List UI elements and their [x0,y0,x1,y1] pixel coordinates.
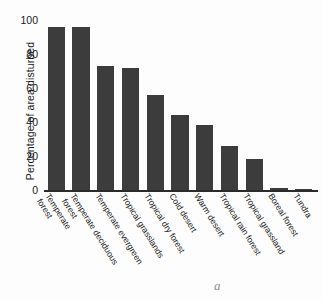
x-tick-label: Temperate deciduousforest [60,192,120,272]
bar [147,95,164,190]
x-axis-tick-labels: TemperateforestTemperate deciduousforest… [44,192,323,299]
bar [171,115,188,190]
bar [246,159,263,190]
plot-area [44,20,316,190]
bar [72,27,89,190]
bar [48,27,65,190]
bar [196,125,213,190]
bar [97,66,114,190]
y-tick-label: 60 [14,83,38,94]
y-tick-label: 20 [14,151,38,162]
y-tick-label: 0 [14,185,38,196]
x-tick-label-line1: Tundra [291,191,314,219]
y-tick-label: 100 [14,15,38,26]
x-tick-label: Tundra [291,192,313,220]
bar [221,146,238,190]
bar [122,68,139,190]
y-tick-label: 40 [14,117,38,128]
y-tick-label: 80 [14,49,38,60]
figure-caption-mark: a [214,278,221,294]
y-axis-ticks: 100806040200 [6,0,38,299]
bar-chart-figure: Percentage of area disturbed 10080604020… [0,0,323,299]
